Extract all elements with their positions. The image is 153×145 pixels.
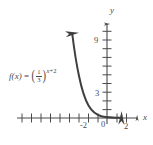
x-tick-label-2: 2 bbox=[124, 122, 128, 131]
open-paren-text: ( bbox=[32, 69, 36, 83]
function-name-text: f(x) bbox=[9, 71, 22, 81]
exponent-group: x+2 bbox=[47, 67, 57, 74]
x-tick-label-negative-2: -2 bbox=[80, 121, 87, 130]
fraction-one-third: 1 3 bbox=[36, 69, 41, 84]
exponent-constant-text: 2 bbox=[53, 67, 56, 74]
equals-sign-text: = bbox=[24, 71, 29, 81]
fraction-numerator-text: 1 bbox=[36, 69, 41, 76]
exponential-function-graph-figure: y x 9 3 -2 0 2 f(x) = ( 1 3 ) x+2 bbox=[0, 0, 153, 145]
x-tick-label-0: 0 bbox=[101, 120, 105, 129]
y-tick-label-3: 3 bbox=[95, 89, 99, 98]
function-equation-label: f(x) = ( 1 3 ) x+2 bbox=[9, 69, 57, 84]
function-curve bbox=[72, 34, 121, 118]
y-tick-label-9: 9 bbox=[94, 36, 98, 45]
y-axis-label: y bbox=[110, 6, 114, 15]
x-axis-label: x bbox=[143, 113, 147, 122]
fraction-denominator-text: 3 bbox=[36, 77, 41, 84]
close-paren-text: ) bbox=[42, 69, 46, 83]
